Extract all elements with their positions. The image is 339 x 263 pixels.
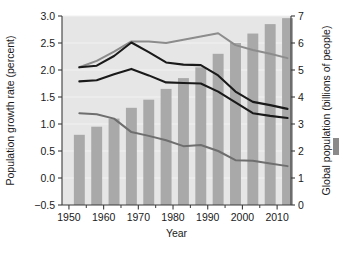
bar	[109, 119, 120, 205]
tick-label-left: 1.5	[40, 91, 55, 103]
tick-label-x: 2000	[231, 211, 255, 223]
tick-label-x: 1990	[196, 211, 220, 223]
tick-label-right: 0	[298, 199, 304, 211]
bar	[143, 100, 154, 205]
tick-label-left: 1.0	[40, 118, 55, 130]
tick-label-x: 1970	[127, 211, 151, 223]
tick-label-left: 2.0	[40, 64, 55, 76]
bar	[126, 108, 137, 205]
y-axis-title-left: Population growth rate (percent)	[4, 36, 16, 186]
y-axis-title-right: Global population (billions of people)	[320, 26, 332, 196]
page-edge-mark	[333, 138, 339, 155]
bar	[178, 78, 189, 205]
bar	[247, 34, 258, 205]
tick-label-x: 1980	[161, 211, 185, 223]
bar	[230, 43, 241, 205]
tick-label-right: 1	[298, 172, 304, 184]
bar	[91, 127, 102, 205]
tick-label-right: 7	[298, 10, 304, 22]
tick-label-x: 1960	[92, 211, 116, 223]
bar	[74, 135, 85, 205]
tick-label-x: 1950	[57, 211, 81, 223]
tick-label-right: 2	[298, 145, 304, 157]
tick-label-left: 0.0	[40, 172, 55, 184]
tick-label-right: 5	[298, 64, 304, 76]
tick-label-left: 3.0	[40, 10, 55, 22]
tick-label-left: 2.5	[40, 37, 55, 49]
x-axis-title: Year	[166, 227, 188, 239]
tick-label-x: 2010	[265, 211, 289, 223]
bar	[161, 89, 172, 205]
tick-label-left: −0.5	[34, 199, 55, 211]
tick-label-right: 4	[298, 91, 304, 103]
bar	[195, 67, 206, 205]
chart-figure: −0.50.00.51.01.52.02.53.0012345671950196…	[0, 0, 339, 263]
tick-label-left: 0.5	[40, 145, 55, 157]
population-growth-chart: −0.50.00.51.01.52.02.53.0012345671950196…	[0, 0, 339, 263]
tick-label-right: 3	[298, 118, 304, 130]
tick-label-right: 6	[298, 37, 304, 49]
